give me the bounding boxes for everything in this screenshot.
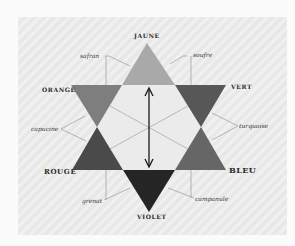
label-turquoise: turquoise: [239, 122, 268, 129]
label-grenat: grenat: [82, 197, 102, 204]
label-safran: safran: [80, 52, 99, 59]
label-campanule: campanule: [195, 195, 228, 202]
triangle-jaune: [122, 43, 175, 85]
label-capucine: capucine: [31, 125, 58, 132]
label-jaune: JAUNE: [134, 32, 160, 39]
label-rouge: ROUGE: [44, 167, 76, 176]
label-soufre: soufre: [193, 51, 212, 58]
label-bleu: BLEU: [229, 165, 256, 175]
label-orange: ORANGE: [42, 86, 76, 93]
label-vert: VERT: [231, 83, 252, 90]
triangle-violet: [123, 170, 175, 212]
label-violet: VIOLET: [137, 213, 167, 220]
